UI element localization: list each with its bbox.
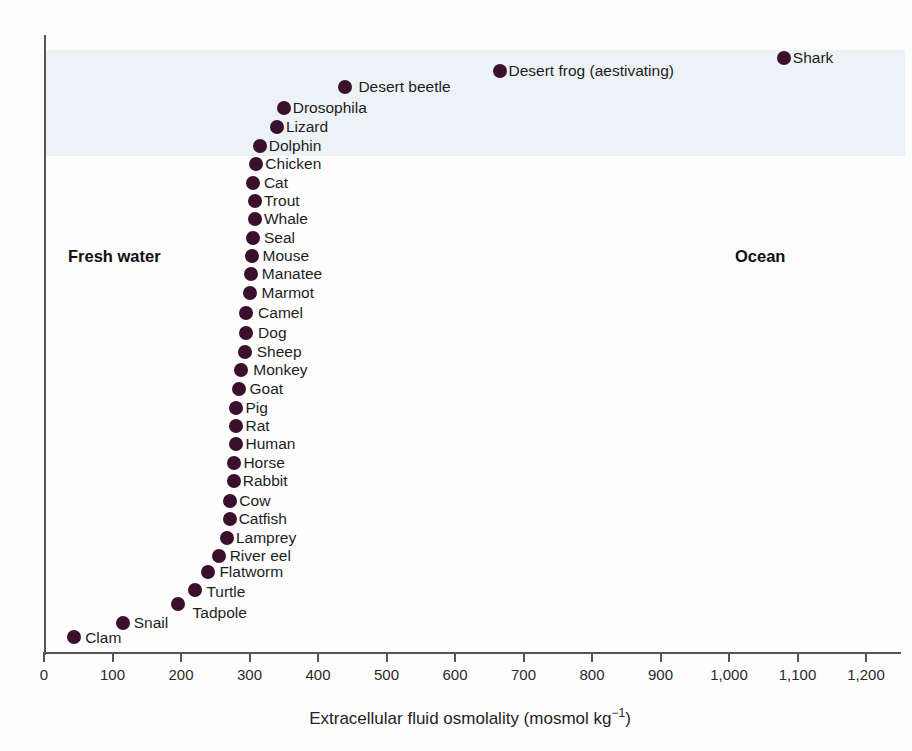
x-axis-tick-mark <box>454 654 456 662</box>
data-point-label: Shark <box>793 49 834 67</box>
data-point-dot <box>238 345 252 359</box>
x-axis-tick-mark <box>317 654 319 662</box>
data-point-dot <box>248 212 262 226</box>
data-point-label: Desert beetle <box>358 78 450 96</box>
data-point-dot <box>248 194 262 208</box>
x-axis-tick-mark <box>43 654 45 662</box>
x-axis-tick-label: 200 <box>168 666 193 683</box>
x-axis-tick-mark <box>523 654 525 662</box>
data-point-label: Lamprey <box>236 529 296 547</box>
x-axis-tick-mark <box>180 654 182 662</box>
data-point-label: Dog <box>258 324 286 342</box>
data-point-label: Flatworm <box>219 563 283 581</box>
data-point-dot <box>246 231 260 245</box>
data-point-label: Trout <box>264 192 300 210</box>
x-axis-title-text: Extracellular fluid osmolality (mosmol k… <box>309 709 611 728</box>
x-axis-tick-mark <box>797 654 799 662</box>
data-point-dot <box>239 306 253 320</box>
data-point-label: Sheep <box>257 343 302 361</box>
x-axis-tick-mark <box>249 654 251 662</box>
data-point-label: Dolphin <box>269 137 322 155</box>
data-point-dot <box>253 139 267 153</box>
data-point-dot <box>493 64 507 78</box>
data-point-label: Manatee <box>262 265 322 283</box>
x-axis-tick-mark <box>591 654 593 662</box>
data-point-label: Mouse <box>263 247 310 265</box>
fresh-water-label: Fresh water <box>68 247 161 266</box>
data-point-dot <box>229 419 243 433</box>
data-point-dot <box>777 51 791 65</box>
data-point-label: Chicken <box>265 155 321 173</box>
data-point-label: Catfish <box>239 510 287 528</box>
data-point-dot <box>227 456 241 470</box>
data-point-dot <box>223 512 237 526</box>
x-axis-title: Extracellular fluid osmolality (mosmol k… <box>309 706 631 729</box>
x-axis-tick-mark <box>865 654 867 662</box>
x-axis-tick-mark <box>660 654 662 662</box>
x-axis-tick-label: 800 <box>579 666 604 683</box>
data-point-label: Whale <box>264 210 308 228</box>
data-point-dot <box>229 437 243 451</box>
x-axis-tick-label: 500 <box>374 666 399 683</box>
data-point-dot <box>212 549 226 563</box>
data-point-dot <box>270 120 284 134</box>
data-point-label: Drosophila <box>293 99 367 117</box>
data-point-label: Camel <box>258 304 303 322</box>
data-point-label: Rabbit <box>243 472 288 490</box>
x-axis-tick-mark <box>112 654 114 662</box>
data-point-dot <box>277 101 291 115</box>
x-axis-tick-label: 300 <box>237 666 262 683</box>
data-point-label: Goat <box>250 380 284 398</box>
data-point-label: Desert frog (aestivating) <box>509 62 674 80</box>
data-point-dot <box>116 616 130 630</box>
data-point-dot <box>244 267 258 281</box>
data-point-label: Turtle <box>206 583 245 601</box>
data-point-dot <box>188 583 202 597</box>
data-point-dot <box>67 630 81 644</box>
data-point-dot <box>227 474 241 488</box>
data-point-dot <box>249 157 263 171</box>
x-axis-tick-label: 700 <box>511 666 536 683</box>
x-axis-tick-mark <box>728 654 730 662</box>
data-point-label: Horse <box>243 454 284 472</box>
data-point-dot <box>229 401 243 415</box>
data-point-dot <box>234 363 248 377</box>
x-axis-tick-label: 1,200 <box>847 666 885 683</box>
data-point-label: Human <box>245 435 295 453</box>
x-axis-tick-label: 100 <box>100 666 125 683</box>
data-point-dot <box>246 176 260 190</box>
data-point-label: Snail <box>134 614 168 632</box>
x-axis-tick-label: 600 <box>442 666 467 683</box>
x-axis-title-superscript: −1 <box>611 706 625 720</box>
x-axis-tick-label: 1,000 <box>710 666 748 683</box>
x-axis-tick-label: 1,100 <box>779 666 817 683</box>
data-point-dot <box>223 494 237 508</box>
data-point-label: Tadpole <box>193 604 247 622</box>
data-point-dot <box>201 565 215 579</box>
x-axis-tick-mark <box>386 654 388 662</box>
x-axis-line <box>43 652 901 654</box>
data-point-dot <box>243 286 257 300</box>
data-point-label: Monkey <box>253 361 307 379</box>
x-axis-title-close-paren: ) <box>625 709 631 728</box>
data-point-label: Lizard <box>286 118 328 136</box>
data-point-label: Cow <box>239 492 270 510</box>
data-point-label: Marmot <box>262 284 315 302</box>
x-axis-tick-label: 400 <box>305 666 330 683</box>
data-point-dot <box>239 326 253 340</box>
data-point-dot <box>232 382 246 396</box>
data-point-dot <box>171 597 185 611</box>
background-band <box>46 50 905 156</box>
ocean-label: Ocean <box>735 247 785 266</box>
data-point-dot <box>220 531 234 545</box>
data-point-label: Seal <box>264 229 295 247</box>
x-axis-tick-label: 0 <box>40 666 48 683</box>
data-point-dot <box>245 249 259 263</box>
data-point-label: Pig <box>245 399 267 417</box>
data-point-dot <box>338 80 352 94</box>
x-axis-tick-label: 900 <box>648 666 673 683</box>
data-point-label: Cat <box>264 174 288 192</box>
data-point-label: Clam <box>85 629 121 647</box>
osmolality-scatter-figure: 01002003004005006007008009001,0001,1001,… <box>0 0 912 751</box>
y-axis-line <box>44 35 46 655</box>
